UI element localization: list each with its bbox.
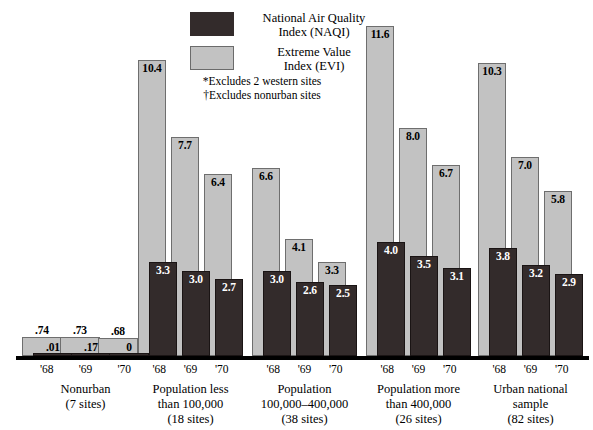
bar-naqi-urban-national-69: 3.2 <box>522 265 550 356</box>
bar-value-evi: 6.4 <box>205 177 231 189</box>
bar-naqi-pop-100k-400k-70: 2.5 <box>329 285 357 356</box>
bar-evi-pop-more-400k-69: 8.0 <box>399 128 427 356</box>
bar-naqi-pop-more-400k-70: 3.1 <box>443 268 471 356</box>
category-label-line: than 400,000 <box>342 397 495 412</box>
bar-value-naqi: 2.7 <box>216 282 242 294</box>
bar-value-naqi: 2.6 <box>297 285 323 297</box>
tick-label: '70 <box>546 363 577 375</box>
category-label-line: (82 sites) <box>454 412 593 427</box>
bar-value-naqi: 4.0 <box>378 245 404 257</box>
bar-value-naqi: 3.5 <box>411 259 437 271</box>
bar-naqi-nonurban-69: .17 <box>71 353 111 356</box>
category-label-pop-less-100k: Population lessthan 100,000(18 sites) <box>114 382 267 427</box>
category-label-line: than 100,000 <box>114 397 267 412</box>
bar-naqi-pop-less-100k-69: 3.0 <box>182 271 210 356</box>
tick-label: '68 <box>28 363 67 375</box>
axis-ticks-pop-more-400k: '68'69'70 <box>372 363 466 375</box>
category-label-line: Population <box>228 382 381 397</box>
category-label-line: Population more <box>342 382 495 397</box>
axis-ticks-pop-100k-400k: '68'69'70 <box>258 363 352 375</box>
bar-naqi-urban-national-68: 3.8 <box>489 248 517 356</box>
bar-value-evi: 4.1 <box>286 242 312 254</box>
axis-ticks-urban-national: '68'69'70 <box>484 363 578 375</box>
category-label-line: Population less <box>114 382 267 397</box>
bar-value-evi: 6.7 <box>433 168 459 180</box>
bar-value-evi: .73 <box>61 325 99 337</box>
tick-label: '69 <box>66 363 105 375</box>
bar-naqi-pop-more-400k-69: 3.5 <box>410 256 438 356</box>
category-label-pop-more-400k: Population morethan 400,000(26 sites) <box>342 382 495 427</box>
category-label-urban-national: Urban nationalsample(82 sites) <box>454 382 593 427</box>
bar-naqi-nonurban-70: 0 <box>109 353 149 356</box>
category-label-pop-100k-400k: Population100,000–400,000(38 sites) <box>228 382 381 427</box>
tick-label: '70 <box>434 363 465 375</box>
bar-naqi-urban-national-70: 2.9 <box>555 274 583 357</box>
category-label-line: Nonurban <box>0 382 173 397</box>
category-label-line: (38 sites) <box>228 412 381 427</box>
tick-label: '68 <box>258 363 289 375</box>
category-label-line: (18 sites) <box>114 412 267 427</box>
bar-evi-pop-100k-400k-69: 4.1 <box>285 239 313 356</box>
category-label-line: 100,000–400,000 <box>228 397 381 412</box>
tick-label: '68 <box>144 363 175 375</box>
tick-label: '68 <box>372 363 403 375</box>
bar-naqi-pop-100k-400k-68: 3.0 <box>263 271 291 356</box>
category-label-line: Urban national <box>454 382 593 397</box>
bar-value-evi: .74 <box>23 325 61 337</box>
tick-label: '69 <box>403 363 434 375</box>
tick-label: '70 <box>105 363 144 375</box>
bar-value-naqi: .17 <box>72 342 110 354</box>
tick-label: '69 <box>175 363 206 375</box>
bar-evi-pop-less-100k-69: 7.7 <box>171 137 199 356</box>
bar-value-evi: 7.7 <box>172 140 198 152</box>
tick-label: '70 <box>320 363 351 375</box>
axis-baseline-nonurban <box>16 356 155 360</box>
bar-value-naqi: 3.0 <box>183 274 209 286</box>
bar-value-naqi: 3.3 <box>150 265 176 277</box>
axis-baseline-pop-less-100k <box>132 356 249 360</box>
bar-value-naqi: 3.2 <box>523 268 549 280</box>
bar-naqi-pop-less-100k-70: 2.7 <box>215 279 243 356</box>
bar-value-evi: 10.3 <box>479 66 505 78</box>
tick-label: '69 <box>289 363 320 375</box>
category-label-nonurban: Nonurban(7 sites) <box>0 382 173 412</box>
axis-ticks-nonurban: '68'69'70 <box>28 363 144 375</box>
category-label-line: (7 sites) <box>0 397 173 412</box>
bar-value-evi: 7.0 <box>512 160 538 172</box>
bar-naqi-pop-100k-400k-69: 2.6 <box>296 282 324 356</box>
bar-value-naqi: 3.8 <box>490 251 516 263</box>
bar-value-evi: 6.6 <box>253 171 279 183</box>
bar-value-naqi: 0 <box>110 342 148 354</box>
bar-evi-pop-100k-400k-68: 6.6 <box>252 168 280 356</box>
axis-baseline-urban-national <box>472 356 589 360</box>
bar-naqi-pop-more-400k-68: 4.0 <box>377 242 405 356</box>
bar-value-evi: 8.0 <box>400 131 426 143</box>
tick-label: '70 <box>206 363 237 375</box>
bar-value-naqi: 3.1 <box>444 271 470 283</box>
bar-value-evi: 10.4 <box>139 63 165 75</box>
bar-evi-pop-100k-400k-70: 3.3 <box>318 262 346 356</box>
bar-evi-pop-less-100k-68: 10.4 <box>138 60 166 356</box>
bar-evi-nonurban-70: .68 <box>98 338 138 356</box>
bar-value-evi: 11.6 <box>367 29 393 41</box>
bar-evi-pop-more-400k-70: 6.7 <box>432 165 460 356</box>
bar-value-naqi: 3.0 <box>264 274 290 286</box>
tick-label: '69 <box>515 363 546 375</box>
bar-value-naqi: .01 <box>34 342 72 354</box>
axis-baseline-pop-100k-400k <box>246 356 363 360</box>
bar-evi-urban-national-69: 7.0 <box>511 157 539 356</box>
bar-evi-nonurban-68: .74 <box>22 337 62 356</box>
axis-ticks-pop-less-100k: '68'69'70 <box>144 363 238 375</box>
category-label-line: (26 sites) <box>342 412 495 427</box>
bar-value-naqi: 2.9 <box>556 277 582 289</box>
bar-value-evi: .68 <box>99 326 137 338</box>
bar-naqi-pop-less-100k-68: 3.3 <box>149 262 177 356</box>
bar-evi-urban-national-70: 5.8 <box>544 191 572 356</box>
bar-value-evi: 3.3 <box>319 265 345 277</box>
